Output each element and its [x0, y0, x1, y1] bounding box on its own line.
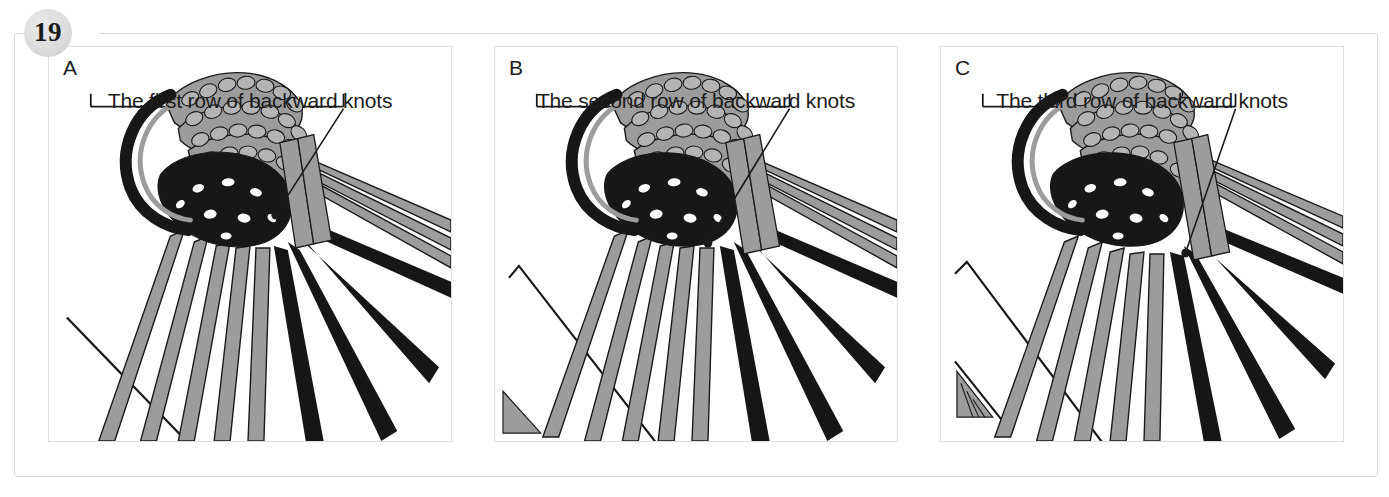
panel-c: C The third row of backward knots [940, 46, 1344, 442]
pointer-dot [271, 211, 280, 220]
panel-b: B The second row of backward knots [494, 46, 898, 442]
page-number-text: 19 [34, 19, 62, 46]
gray-cords [543, 230, 714, 441]
page-root: 19 [0, 0, 1389, 497]
gray-cords [99, 230, 270, 441]
panel-caption: The first row of backward knots [49, 89, 451, 113]
panel-row: A The first row of backward knots [48, 46, 1344, 466]
pointer-dot [1181, 248, 1190, 257]
page-number-badge: 19 [24, 9, 72, 57]
panel-letter: C [955, 57, 970, 78]
panel-letter: A [63, 57, 77, 78]
panel-a: A The first row of backward knots [48, 46, 452, 442]
corner-wedge-icon [503, 391, 541, 433]
panel-caption: The second row of backward knots [495, 89, 897, 113]
panel-caption: The third row of backward knots [941, 89, 1343, 113]
panel-letter: B [509, 57, 523, 78]
pointer-dot [703, 239, 712, 248]
corner-wedge-stripes [957, 371, 993, 417]
